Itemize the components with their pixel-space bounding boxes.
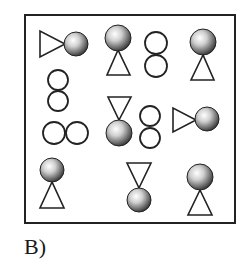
ring-icon bbox=[66, 122, 88, 144]
option-label: B) bbox=[24, 234, 46, 260]
triangle-icon bbox=[40, 31, 65, 57]
ring-icon bbox=[43, 122, 65, 144]
shaded-ball-icon bbox=[40, 158, 64, 182]
shaded-ball-icon bbox=[106, 120, 132, 146]
ball-triangle-icon bbox=[105, 25, 131, 75]
triangle-icon bbox=[108, 97, 131, 120]
ball-triangle-icon bbox=[40, 31, 88, 57]
ring-icon bbox=[145, 32, 167, 54]
shaded-ball-icon bbox=[190, 29, 216, 55]
triangle-icon bbox=[127, 163, 151, 188]
triangle-icon bbox=[40, 182, 64, 208]
ball-triangle-icon bbox=[190, 29, 216, 80]
ball-triangle-icon bbox=[173, 107, 219, 132]
shaded-ball-icon bbox=[105, 25, 131, 51]
shaded-ball-icon bbox=[64, 32, 88, 56]
ball-triangle-icon bbox=[106, 97, 132, 146]
ring-icon bbox=[48, 91, 68, 111]
figure-eight-icon bbox=[140, 106, 160, 148]
shaded-ball-icon bbox=[127, 188, 151, 212]
triangle-icon bbox=[191, 55, 214, 80]
triangle-icon bbox=[188, 190, 212, 215]
ring-icon bbox=[140, 128, 160, 148]
figure-eight-icon bbox=[43, 122, 88, 144]
shape-group bbox=[40, 25, 219, 215]
ball-triangle-icon bbox=[127, 163, 151, 212]
shaded-ball-icon bbox=[195, 107, 219, 131]
ball-triangle-icon bbox=[187, 164, 213, 215]
figure-eight-icon bbox=[48, 70, 68, 111]
ball-triangle-icon bbox=[40, 158, 64, 208]
shaded-ball-icon bbox=[187, 164, 213, 190]
triangle-icon bbox=[173, 108, 196, 132]
figure-eight-icon bbox=[145, 32, 167, 77]
ring-icon bbox=[145, 55, 167, 77]
ring-icon bbox=[48, 70, 68, 90]
ring-icon bbox=[140, 106, 160, 126]
triangle-icon bbox=[107, 50, 130, 75]
